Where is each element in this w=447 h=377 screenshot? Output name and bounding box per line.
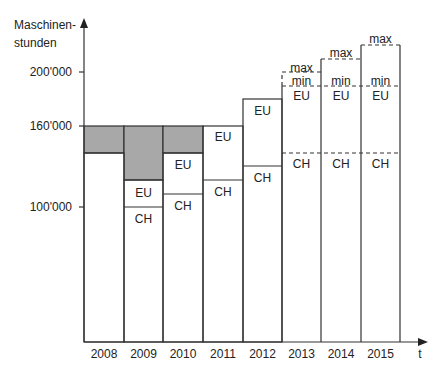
eu-2012: EU [243, 104, 282, 118]
x-axis-arrow-icon [418, 338, 428, 346]
x-tick-2008: 2008 [84, 347, 124, 361]
eu-2011: EU [203, 130, 243, 144]
eu-2009: EU [124, 186, 163, 200]
x-tick-2009: 2009 [124, 347, 163, 361]
ytick-160000: 160'000 [16, 119, 72, 133]
x-tick-2010: 2010 [163, 347, 203, 361]
ch-2010: CH [163, 199, 203, 213]
ch-2013: CH [282, 157, 321, 171]
y-axis-label-2: stunden [14, 36, 57, 50]
eu-2013: EU [282, 89, 321, 103]
max-2013: max [282, 61, 321, 75]
y-axis-label-1: Maschinen- [14, 18, 76, 32]
x-tick-2011: 2011 [203, 347, 243, 361]
x-tick-2013: 2013 [282, 347, 321, 361]
eu-2015: EU [361, 89, 400, 103]
x-tick-2015: 2015 [361, 347, 400, 361]
ch-2012: CH [243, 171, 282, 185]
x-tick-2014: 2014 [321, 347, 361, 361]
min-2014: min [321, 74, 361, 88]
x-axis-label: t [410, 347, 430, 361]
min-2015: min [361, 74, 400, 88]
ch-2009: CH [124, 212, 163, 226]
eu-2014: EU [321, 89, 361, 103]
ytick-200000: 200'000 [16, 65, 72, 79]
max-2015: max [361, 32, 400, 46]
eu-2010: EU [163, 158, 203, 172]
ytick-100000: 100'000 [16, 200, 72, 214]
ch-2011: CH [203, 185, 243, 199]
min-2013: min [282, 74, 321, 88]
max-2014: max [321, 46, 361, 60]
x-tick-2012: 2012 [243, 347, 282, 361]
ch-2015: CH [361, 157, 400, 171]
ch-2014: CH [321, 157, 361, 171]
y-axis-arrow-icon [80, 18, 88, 28]
